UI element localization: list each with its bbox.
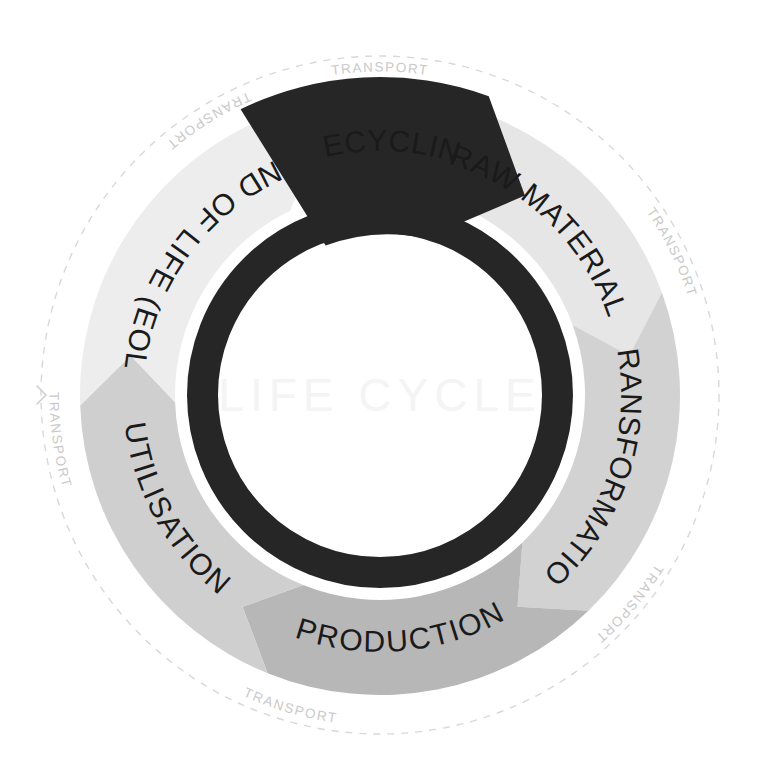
transport-bottom-label: TRANSPORT xyxy=(242,685,339,726)
transport-label-text: TRANSPORT xyxy=(242,685,339,726)
center-watermark-text: LIFE CYCLE xyxy=(218,369,541,421)
stage-label-text: END OF LIFE (EOL) xyxy=(0,0,287,373)
lifecycle-diagram: RAW MATERIALTRANSFORMATIONPRODUCTIONUTIL… xyxy=(0,0,759,784)
lifecycle-wheel: RAW MATERIALTRANSFORMATIONPRODUCTIONUTIL… xyxy=(0,0,759,784)
transport-top-label: TRANSPORT xyxy=(330,60,429,79)
stage-label-end-of-life: END OF LIFE (EOL) xyxy=(0,0,287,373)
transport-label-text: TRANSPORT xyxy=(330,60,429,79)
